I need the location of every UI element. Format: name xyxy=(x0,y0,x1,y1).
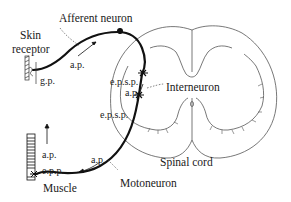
ap-interneuron-label: a.p. xyxy=(125,88,139,98)
gp-label: g.p. xyxy=(40,76,55,86)
epsp-upper-label: e.p.s.p. xyxy=(110,77,138,87)
muscle-label: Muscle xyxy=(43,183,77,195)
spinal-cord-label: Spinal cord xyxy=(160,157,213,169)
interneuron-label: Interneuron xyxy=(166,82,220,94)
epp-label: e.p.p. xyxy=(42,166,64,176)
afferent-neuron-label: Afferent neuron xyxy=(59,13,133,25)
arrows xyxy=(45,42,143,173)
ap-muscle-label: a.p. xyxy=(42,150,56,160)
skin-receptor-label-line2: receptor xyxy=(12,44,50,56)
skin-receptor-label-line1: Skin xyxy=(20,30,41,42)
ap-motor-label: a.p. xyxy=(91,155,105,165)
ap-afferent-label: a.p. xyxy=(70,60,84,70)
motoneuron-label: Motoneuron xyxy=(120,178,177,190)
epsp-lower-label: e.p.s.p. xyxy=(100,110,128,120)
leader-lines xyxy=(60,28,164,170)
endplate-star xyxy=(30,171,38,177)
